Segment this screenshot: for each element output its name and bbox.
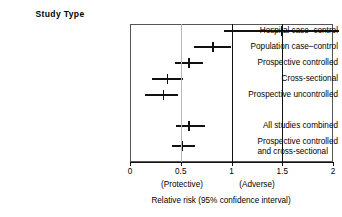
study-type-column-header: Study Type (0, 9, 124, 19)
x-axis-tick-label: 0 (117, 167, 143, 176)
study-row-label-line1: All studies combined (263, 121, 338, 130)
x-axis-tick (130, 162, 131, 166)
study-row-label-line1: Prospective uncontrolled (248, 90, 338, 99)
study-row-label-line1: Prospective controlled (257, 58, 338, 67)
confidence-interval-bar (145, 94, 177, 96)
reference-line-1 (232, 24, 233, 162)
adverse-zone-label: (Adverse) (222, 180, 292, 189)
point-estimate-marker (188, 58, 190, 68)
study-row-label: Prospective controlledand cross-sectiona… (257, 137, 338, 156)
x-axis-tick-label: 0.5 (168, 167, 194, 176)
x-axis-tick (282, 162, 283, 166)
study-row-label: Cross-sectional (282, 74, 338, 84)
confidence-interval-bar (172, 145, 195, 147)
x-axis-tick (333, 162, 334, 166)
x-axis-tick (181, 162, 182, 166)
study-row-label: Population case–control (251, 42, 338, 52)
study-row-label-line1: Cross-sectional (282, 74, 338, 83)
x-axis-tick (232, 162, 233, 166)
x-axis-tick-label: 1.5 (269, 167, 295, 176)
study-row-label-line1: Prospective controlled (257, 137, 338, 146)
study-row-label: Prospective controlled (257, 58, 338, 68)
point-estimate-marker (167, 74, 169, 84)
reference-line-0-5 (181, 24, 182, 162)
forest-plot-figure: Study Type Relative risk (95% confidence… (0, 0, 342, 217)
study-type-label-column: Study Type (0, 0, 130, 217)
protective-zone-label: (Protective) (147, 180, 217, 189)
point-estimate-marker (188, 121, 190, 131)
study-row-label: All studies combined (263, 121, 338, 131)
study-row-label-line2: and cross-sectional (257, 147, 338, 157)
x-axis-tick-label: 2 (320, 167, 342, 176)
study-row-label-line1: Population case–control (251, 42, 338, 51)
reference-line-1-5 (282, 24, 283, 162)
x-axis-tick-label: 1 (219, 167, 245, 176)
x-axis-title: Relative risk (95% confidence interval) (100, 196, 342, 205)
study-row-label: Prospective uncontrolled (248, 90, 338, 100)
point-estimate-marker (212, 42, 214, 52)
point-estimate-marker (163, 90, 165, 100)
